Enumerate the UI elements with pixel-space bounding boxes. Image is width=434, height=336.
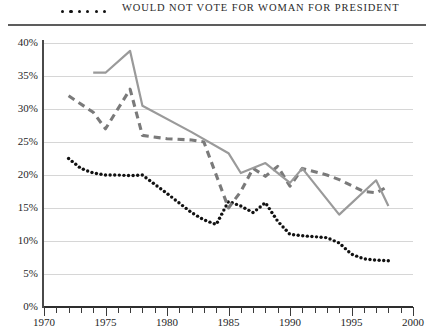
- x-axis-tick: [142, 307, 143, 313]
- x-axis-tick: [81, 307, 82, 313]
- data-point: [284, 229, 287, 232]
- x-axis-tick: [327, 307, 328, 313]
- data-point: [122, 174, 125, 177]
- data-point: [159, 187, 162, 190]
- data-point: [216, 221, 219, 224]
- data-point: [281, 225, 284, 228]
- data-point: [337, 241, 340, 244]
- x-axis-tick: [69, 307, 70, 313]
- series-lines: [44, 43, 413, 307]
- x-axis-tick: [352, 307, 353, 316]
- data-point: [136, 174, 139, 177]
- data-point: [258, 205, 261, 208]
- x-axis-tick: [278, 307, 279, 313]
- series-line: [69, 89, 389, 208]
- data-point: [247, 209, 250, 212]
- data-point: [315, 235, 318, 238]
- y-axis-tick-label: 15%: [18, 202, 38, 213]
- x-axis-tick: [241, 307, 242, 313]
- dotted-line-marker-icon: [61, 10, 109, 14]
- x-axis-tick-label: 1980: [156, 316, 178, 328]
- x-axis-tick: [401, 307, 402, 313]
- data-point: [166, 193, 169, 196]
- data-point: [82, 168, 85, 171]
- data-point: [275, 218, 278, 221]
- data-point: [131, 174, 134, 177]
- data-point: [188, 210, 191, 213]
- x-axis-tick: [106, 307, 107, 316]
- x-axis-tick: [167, 307, 168, 316]
- data-point: [163, 190, 166, 193]
- x-axis-tick: [56, 307, 57, 313]
- data-point: [218, 217, 221, 220]
- data-point: [220, 212, 223, 215]
- data-point: [364, 257, 367, 260]
- x-axis-tick: [192, 307, 193, 313]
- legend-label: WOULD NOT VOTE FOR WOMAN FOR PRESIDENT: [122, 2, 399, 13]
- data-point: [373, 258, 376, 261]
- data-point: [222, 208, 225, 211]
- data-point: [270, 211, 273, 214]
- data-point: [377, 259, 380, 262]
- data-point: [213, 222, 216, 225]
- data-point: [170, 195, 173, 198]
- data-point: [340, 244, 343, 247]
- data-point: [86, 169, 89, 172]
- y-axis-tick-label: 5%: [23, 268, 38, 279]
- data-point: [184, 207, 187, 210]
- data-point: [368, 258, 371, 261]
- data-point: [351, 253, 354, 256]
- x-axis-tick: [388, 307, 389, 313]
- data-point: [104, 173, 107, 176]
- data-point: [387, 259, 390, 262]
- x-axis-tick-label: 1975: [95, 316, 117, 328]
- data-point: [99, 173, 102, 176]
- data-point: [113, 173, 116, 176]
- y-axis-labels: 0%5%10%15%20%25%30%35%40%: [0, 0, 38, 336]
- x-axis-tick: [265, 307, 266, 313]
- x-axis-tick: [376, 307, 377, 313]
- data-point: [108, 173, 111, 176]
- x-axis-tick: [253, 307, 254, 313]
- data-point: [174, 198, 177, 201]
- x-axis-tick: [302, 307, 303, 313]
- data-point: [127, 174, 130, 177]
- x-axis-tick-label: 1970: [33, 316, 55, 328]
- data-point: [70, 160, 73, 163]
- x-axis-tick: [155, 307, 156, 313]
- data-point: [152, 182, 155, 185]
- x-axis-tick: [118, 307, 119, 313]
- series-line: [93, 51, 388, 215]
- x-axis-tick-label: 1985: [218, 316, 240, 328]
- x-axis-tick: [413, 307, 414, 316]
- x-axis-tick: [216, 307, 217, 313]
- data-point: [74, 163, 77, 166]
- x-axis-tick-label: 2000: [402, 316, 424, 328]
- data-point: [192, 212, 195, 215]
- data-point: [310, 235, 313, 238]
- data-point: [278, 222, 281, 225]
- x-axis-tick: [339, 307, 340, 313]
- data-point: [177, 201, 180, 204]
- x-axis-tick: [44, 307, 45, 316]
- data-point: [204, 219, 207, 222]
- data-point: [273, 215, 276, 218]
- data-point: [155, 184, 158, 187]
- y-axis-tick-label: 20%: [18, 169, 38, 180]
- x-axis-tick: [364, 307, 365, 313]
- data-point: [306, 234, 309, 237]
- data-point: [347, 250, 350, 253]
- data-point: [359, 256, 362, 259]
- data-point: [265, 203, 268, 206]
- y-axis-tick-label: 10%: [18, 235, 38, 246]
- data-point: [224, 204, 227, 207]
- y-axis-tick-label: 30%: [18, 103, 38, 114]
- x-axis-tick-label: 1995: [341, 316, 363, 328]
- x-axis-tick: [130, 307, 131, 313]
- data-point: [333, 239, 336, 242]
- data-point: [78, 165, 81, 168]
- data-point: [268, 207, 271, 210]
- data-point: [243, 206, 246, 209]
- x-axis-tick: [204, 307, 205, 313]
- data-point: [208, 220, 211, 223]
